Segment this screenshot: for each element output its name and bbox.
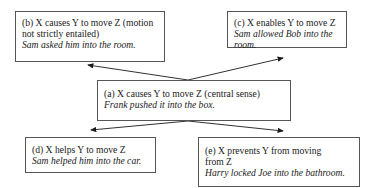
arrow-a-to-c — [188, 58, 283, 80]
node-b-example: Sam asked him into the room. — [22, 39, 158, 50]
node-b: (b) X causes Y to move Z (motion not str… — [15, 11, 165, 62]
node-b-label: (b) X causes Y to move Z (motion not str… — [22, 17, 158, 39]
arrow-a-to-b — [88, 65, 188, 80]
node-a-example: Frank pushed it into the box. — [104, 99, 284, 110]
node-c: (c) X enables Y to move Z Sam allowed Bo… — [227, 11, 347, 48]
node-e: (e) X prevents Y from moving from Z Harr… — [198, 137, 360, 187]
node-d: (d) X helps Y to move Z Sam helped him i… — [25, 137, 156, 173]
arrow-a-to-e — [188, 121, 283, 131]
node-c-label: (c) X enables Y to move Z — [234, 17, 340, 28]
node-e-example: Harry locked Joe into the bathroom. — [205, 167, 329, 178]
node-d-example: Sam helped him into the car. — [32, 155, 149, 166]
node-a-label: (a) X causes Y to move Z (central sense) — [104, 88, 284, 99]
node-c-example: Sam allowed Bob into the room. — [234, 28, 340, 50]
arrow-a-to-d — [91, 121, 188, 130]
node-d-label: (d) X helps Y to move Z — [32, 144, 149, 155]
node-a-center: (a) X causes Y to move Z (central sense)… — [97, 80, 291, 121]
node-e-label: (e) X prevents Y from moving from Z — [205, 145, 329, 167]
